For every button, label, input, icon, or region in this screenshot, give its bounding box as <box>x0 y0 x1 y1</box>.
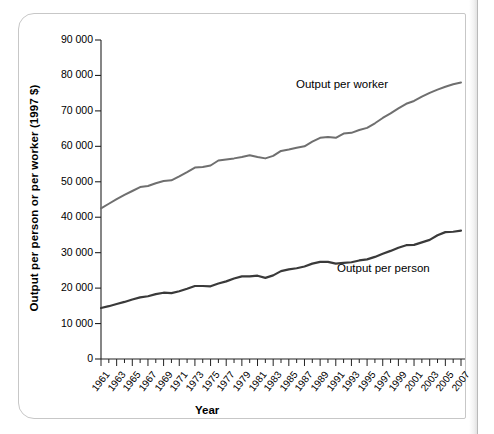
series-label-output-per-person: Output per person <box>337 262 430 274</box>
y-axis-title: Output per person or per worker (1997 $) <box>28 48 40 348</box>
y-tick-label: 60 000 <box>35 139 93 151</box>
y-tick-label: 70 000 <box>35 104 93 116</box>
y-tick-label: 20 000 <box>35 281 93 293</box>
y-tick-label: 10 000 <box>35 317 93 329</box>
chart-page: Output per person or per worker (1997 $)… <box>0 0 494 434</box>
series-line-output-per-worker <box>101 83 461 209</box>
series-label-output-per-worker: Output per worker <box>296 78 388 90</box>
y-tick-label: 30 000 <box>35 246 93 258</box>
y-tick-label: 90 000 <box>35 33 93 45</box>
y-tick-label: 80 000 <box>35 68 93 80</box>
y-tick-label: 40 000 <box>35 210 93 222</box>
x-axis-title: Year <box>195 404 219 416</box>
y-tick-label: 0 <box>35 352 93 364</box>
y-tick-label: 50 000 <box>35 175 93 187</box>
